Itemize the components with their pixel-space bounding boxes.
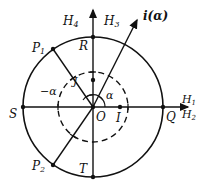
label-h4: H4 <box>62 14 79 29</box>
label-o: O <box>96 110 106 124</box>
label-i: I <box>115 111 121 125</box>
label-neg-alpha: −α <box>40 85 57 98</box>
point-q <box>161 105 165 109</box>
label-p2: P2 <box>31 159 45 174</box>
point-j <box>91 78 95 82</box>
axis-i-alpha <box>93 20 137 107</box>
point-o <box>91 105 95 109</box>
label-r: R <box>78 39 88 53</box>
label-t: T <box>79 162 88 176</box>
label-j: J <box>71 75 78 88</box>
label-s: S <box>9 107 17 121</box>
label-h3: H3 <box>103 14 120 29</box>
point-t <box>91 175 95 179</box>
label-q: Q <box>166 110 176 124</box>
diagram-canvas: H4 H3 i(α) H1 H2 P1 P2 R T S Q O I J α −… <box>0 0 208 187</box>
label-i-alpha: i(α) <box>143 9 168 23</box>
tick-p2 <box>70 134 76 138</box>
label-p1: P1 <box>31 41 45 56</box>
label-h2: H2 <box>181 108 197 122</box>
point-r <box>91 35 95 39</box>
label-alpha: α <box>106 89 114 102</box>
label-h1: H1 <box>181 93 196 107</box>
point-p2 <box>51 163 55 167</box>
point-s <box>21 105 25 109</box>
point-i <box>118 105 122 109</box>
point-p1 <box>51 47 55 51</box>
